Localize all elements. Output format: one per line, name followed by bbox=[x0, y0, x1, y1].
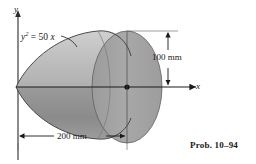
equation-exponent: 2 bbox=[25, 30, 28, 37]
dimension-label-length: 200 mm bbox=[57, 131, 87, 141]
equation-coefficient: 50 bbox=[39, 32, 49, 42]
dimension-label-radius: 100 mm bbox=[152, 52, 182, 62]
equation-equals: = bbox=[31, 32, 36, 42]
curve-equation-label: y2 = 50 x bbox=[21, 30, 55, 42]
x-axis-label: x bbox=[196, 81, 200, 91]
equation-var2: x bbox=[50, 32, 54, 42]
y-axis-label: y bbox=[14, 4, 18, 14]
problem-caption: Prob. 10–94 bbox=[190, 140, 238, 150]
